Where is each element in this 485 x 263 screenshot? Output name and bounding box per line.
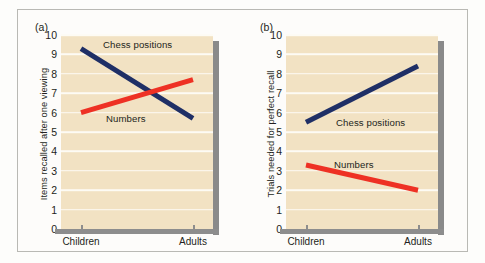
panel-b-ytick-0: 0	[260, 223, 282, 235]
panel-a-xlabel-adults: Adults	[179, 236, 207, 247]
panel-b-plot-shadow	[438, 41, 444, 235]
panel-a-ytick-8: 8	[35, 68, 57, 80]
panel-b: (b) Trials needed for perfect recall 109…	[242, 9, 468, 252]
panel-b-ytick-5: 5	[260, 126, 282, 138]
panel-a-label-chess: Chess positions	[103, 39, 172, 50]
panel-b-x-labels: ChildrenAdults	[280, 236, 450, 252]
panel-a-label-numbers: Numbers	[106, 113, 146, 124]
panel-a-ytick-1: 1	[35, 204, 57, 216]
panel-b-ytick-3: 3	[260, 165, 282, 177]
panel-a-xlabel-children: Children	[62, 236, 99, 247]
panel-b-ytick-9: 9	[260, 48, 282, 60]
panel-b-xlabel-children: Children	[287, 236, 324, 247]
panel-a-series-layer	[61, 35, 213, 229]
panel-b-plot-area: Chess positions Numbers	[286, 35, 438, 229]
panel-a-ytick-4: 4	[35, 145, 57, 157]
panel-a-ytick-7: 7	[35, 87, 57, 99]
panel-b-ytick-1: 1	[260, 204, 282, 216]
figure-container: (a) Items recalled after one viewing 109…	[0, 0, 485, 263]
panel-b-xlabel-adults: Adults	[404, 236, 432, 247]
panel-b-x-axis-bar	[280, 229, 444, 234]
panel-a-xtick-adults	[193, 225, 195, 229]
panel-a-plot-shadow	[213, 41, 219, 235]
panel-a-y-ticks: 109876543210	[35, 35, 57, 229]
panel-b-xtick-adults	[418, 225, 420, 229]
panel-b-series-layer	[286, 35, 438, 229]
panel-a-ytick-6: 6	[35, 107, 57, 119]
panel-a-ytick-3: 3	[35, 165, 57, 177]
panel-a-ytick-10: 10	[35, 29, 57, 41]
panel-a-ytick-9: 9	[35, 48, 57, 60]
panel-a: (a) Items recalled after one viewing 109…	[17, 9, 243, 252]
panel-b-ytick-7: 7	[260, 87, 282, 99]
panel-a-ytick-0: 0	[35, 223, 57, 235]
panel-b-xtick-children	[306, 225, 308, 229]
panel-b-ytick-2: 2	[260, 184, 282, 196]
panel-a-xtick-children	[81, 225, 83, 229]
panel-b-y-ticks: 109876543210	[260, 35, 282, 229]
panel-b-ytick-8: 8	[260, 68, 282, 80]
panel-b-ytick-10: 10	[260, 29, 282, 41]
panel-a-x-labels: ChildrenAdults	[55, 236, 225, 252]
panel-b-label-chess: Chess positions	[336, 117, 405, 128]
panel-b-chess-line	[306, 66, 418, 122]
panel-b-ytick-4: 4	[260, 145, 282, 157]
panel-a-plot-area: Chess positions Numbers	[61, 35, 213, 229]
panel-a-ytick-5: 5	[35, 126, 57, 138]
panel-b-ytick-6: 6	[260, 107, 282, 119]
panel-a-ytick-2: 2	[35, 184, 57, 196]
panel-b-label-numbers: Numbers	[334, 159, 374, 170]
panel-a-x-axis-bar	[55, 229, 219, 234]
